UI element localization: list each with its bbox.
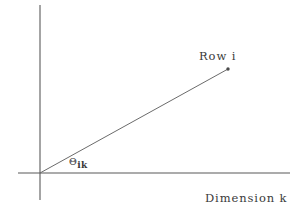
row-point-marker [226, 67, 229, 70]
vector-angle-diagram: Row i Dimension k Θik [0, 0, 301, 216]
theta-symbol: Θ [69, 156, 77, 167]
theta-subscript: ik [77, 160, 87, 170]
diagram-canvas [0, 0, 301, 216]
row-label: Row i [199, 49, 236, 63]
dimension-axis-label: Dimension k [205, 191, 287, 205]
angle-label: Θik [69, 156, 88, 170]
